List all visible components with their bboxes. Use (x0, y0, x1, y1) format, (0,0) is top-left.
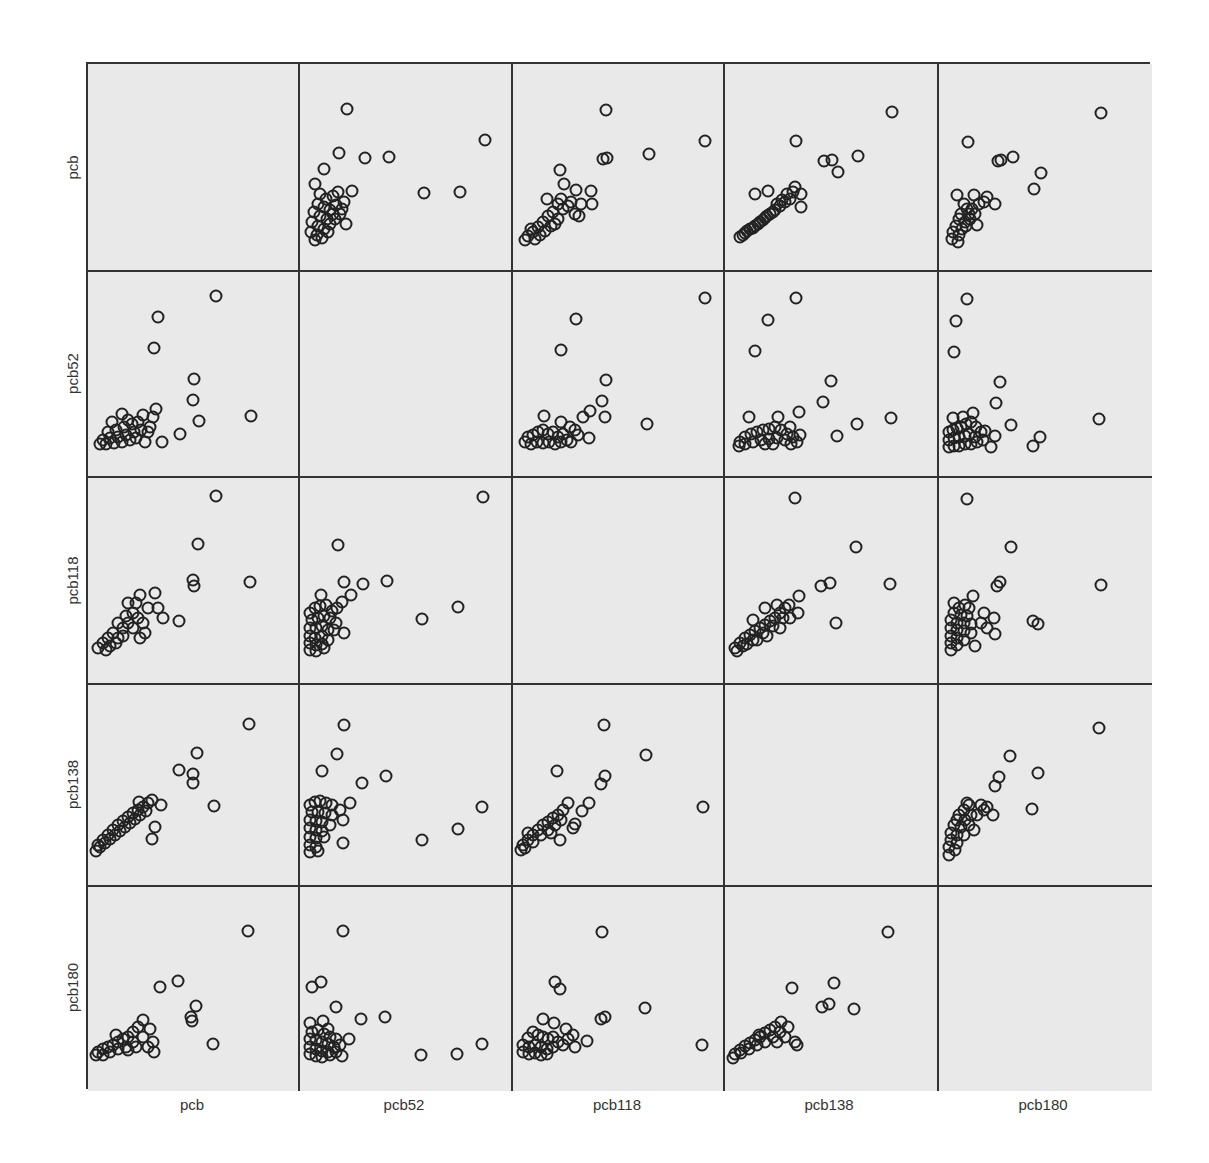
scatter-panel-pcb180-vs-pcb118 (513, 887, 725, 1091)
data-point-marker (962, 494, 973, 505)
data-point-marker (173, 976, 184, 987)
data-point-marker (600, 1012, 611, 1023)
scatterplot-matrix (86, 62, 1150, 1089)
data-point-marker (644, 149, 655, 160)
x-axis-label-pcb: pcb (86, 1096, 298, 1113)
scatter-panel-pcb-vs-pcb118 (513, 64, 725, 272)
scatter-panel-pcb118-vs-pcb180 (939, 478, 1152, 685)
data-point-marker (990, 781, 1001, 792)
data-point-marker (175, 429, 186, 440)
data-point-marker (597, 927, 608, 938)
data-point-marker (477, 802, 488, 813)
scatter-panel-pcb118-vs-pcb (88, 478, 300, 685)
data-point-marker (586, 186, 597, 197)
data-point-marker (832, 431, 843, 442)
data-point-marker (244, 719, 255, 730)
data-point-marker (585, 406, 596, 417)
data-point-marker (341, 219, 352, 230)
data-point-marker (150, 588, 161, 599)
data-point-marker (339, 577, 350, 588)
data-point-marker (338, 838, 349, 849)
data-point-marker (795, 430, 806, 441)
data-point-marker (763, 186, 774, 197)
data-point-marker (1096, 108, 1107, 119)
data-point-marker (792, 1040, 803, 1051)
data-point-marker (191, 1001, 202, 1012)
data-point-marker (817, 1002, 828, 1013)
data-point-marker (453, 602, 464, 613)
data-point-marker (150, 822, 161, 833)
data-point-marker (156, 800, 167, 811)
diagonal-cell-pcb118 (513, 478, 725, 685)
scatter-panel-pcb118-vs-pcb52 (300, 478, 513, 685)
data-point-marker (818, 397, 829, 408)
scatter-panel-pcb-vs-pcb138 (725, 64, 939, 272)
data-point-marker (192, 748, 203, 759)
data-point-marker (826, 376, 837, 387)
data-point-marker (194, 416, 205, 427)
data-point-marker (700, 136, 711, 147)
data-point-marker (526, 224, 537, 235)
x-axis-label-pcb138: pcb138 (723, 1096, 935, 1113)
data-point-marker (549, 1018, 560, 1029)
data-point-marker (358, 579, 369, 590)
data-point-marker (574, 211, 585, 222)
data-point-marker (452, 1049, 463, 1060)
data-point-marker (1094, 414, 1105, 425)
data-point-marker (211, 491, 222, 502)
data-point-marker (600, 412, 611, 423)
data-point-marker (698, 802, 709, 813)
data-point-marker (571, 314, 582, 325)
data-point-marker (853, 151, 864, 162)
data-point-marker (775, 623, 786, 634)
data-point-marker (419, 188, 430, 199)
data-point-marker (887, 107, 898, 118)
data-point-marker (188, 395, 199, 406)
data-point-marker (744, 412, 755, 423)
scatter-panel-pcb52-vs-pcb138 (725, 272, 939, 478)
data-point-marker (246, 411, 257, 422)
x-axis-label-pcb118: pcb118 (511, 1096, 723, 1113)
data-point-marker (794, 407, 805, 418)
data-point-marker (189, 374, 200, 385)
data-point-marker (794, 591, 805, 602)
data-point-marker (1027, 804, 1038, 815)
data-point-marker (697, 1040, 708, 1051)
data-point-marker (990, 199, 1001, 210)
scatter-panel-pcb118-vs-pcb138 (725, 478, 939, 685)
data-point-marker (380, 1012, 391, 1023)
data-point-marker (417, 614, 428, 625)
scatter-panel-pcb180-vs-pcb (88, 887, 300, 1091)
data-point-marker (885, 579, 896, 590)
data-point-marker (883, 927, 894, 938)
data-point-marker (796, 202, 807, 213)
data-point-marker (790, 493, 801, 504)
data-point-marker (455, 187, 466, 198)
y-axis-label-pcb52: pcb52 (64, 271, 81, 476)
data-point-marker (972, 220, 983, 231)
scatter-panel-pcb138-vs-pcb52 (300, 685, 513, 887)
data-point-marker (333, 540, 344, 551)
data-point-marker (1096, 580, 1107, 591)
data-point-marker (174, 765, 185, 776)
scatter-panel-pcb-vs-pcb180 (939, 64, 1152, 272)
data-point-marker (193, 539, 204, 550)
scatter-panel-pcb138-vs-pcb180 (939, 685, 1152, 887)
data-point-marker (991, 398, 1002, 409)
data-point-marker (1008, 152, 1019, 163)
data-point-marker (760, 603, 771, 614)
data-point-marker (538, 1014, 549, 1025)
data-point-marker (555, 165, 566, 176)
data-point-marker (542, 194, 553, 205)
data-point-marker (480, 135, 491, 146)
data-point-marker (582, 1036, 593, 1047)
data-point-marker (963, 137, 974, 148)
data-point-marker (750, 346, 761, 357)
data-point-marker (417, 835, 428, 846)
scatter-panel-pcb180-vs-pcb52 (300, 887, 513, 1091)
data-point-marker (949, 347, 960, 358)
data-point-marker (571, 185, 582, 196)
data-point-marker (601, 375, 612, 386)
scatter-panel-pcb180-vs-pcb138 (725, 887, 939, 1091)
data-point-marker (1006, 542, 1017, 553)
